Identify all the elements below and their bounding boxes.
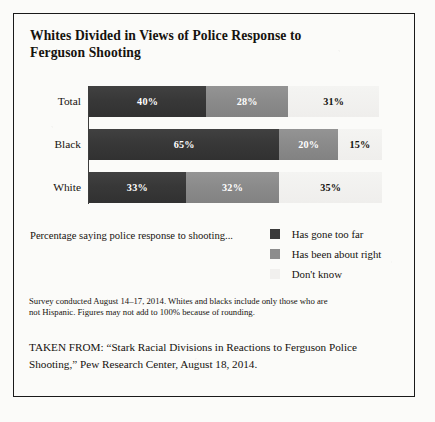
chart-legend: Percentage saying police response to sho… [30,224,390,284]
bar-segment-total-dont-know: 31% [288,86,379,117]
chart-row-bars: 40%28%31% [89,86,397,117]
bar-segment-total-has-been-about-right: 28% [206,86,288,117]
legend-caption: Percentage saying police response to sho… [30,230,233,241]
legend-item-list: Has gone too far Has been about right Do… [270,224,430,284]
bar-segment-black-has-been-about-right: 20% [279,129,338,160]
taken-from-line-1: TAKEN FROM: “Stark Racial Divisions in R… [29,339,385,356]
figure-title-line-1: Whites Divided in Views of Police Respon… [30,27,370,44]
legend-label-has-been-about-right: Has been about right [292,244,382,264]
mid-gray-swatch-icon [270,249,280,259]
dark-gray-swatch-icon [270,229,280,239]
bar-segment-white-has-been-about-right: 32% [186,172,280,203]
legend-label-has-gone-too-far: Has gone too far [292,224,364,244]
chart-row-label-white: White [27,172,81,203]
figure-title: Whites Divided in Views of Police Respon… [30,27,370,61]
taken-from-note: TAKEN FROM: “Stark Racial Divisions in R… [29,339,385,372]
legend-item-has-gone-too-far: Has gone too far [270,224,430,244]
chart-row-bars: 33%32%35% [89,172,397,203]
chart-row-total: Total40%28%31% [27,86,397,117]
chart-row-black: Black65%20%15% [27,129,397,160]
bar-segment-total-has-gone-too-far: 40% [89,86,206,117]
survey-note-line-2: not Hispanic. Figures may not add to 100… [29,307,381,318]
chart-row-white: White33%32%35% [27,172,397,203]
survey-note-line-1: Survey conducted August 14–17, 2014. Whi… [29,296,381,307]
chart-row-bars: 65%20%15% [89,129,397,160]
bar-segment-white-has-gone-too-far: 33% [89,172,186,203]
light-gray-swatch-icon [270,269,280,279]
bar-segment-black-dont-know: 15% [338,129,382,160]
bar-segment-black-has-gone-too-far: 65% [89,129,279,160]
chart-row-label-total: Total [27,86,81,117]
taken-from-line-2: Shooting,” Pew Research Center, August 1… [29,356,385,373]
figure-title-line-2: Ferguson Shooting [30,44,370,61]
legend-label-dont-know: Don't know [292,264,342,284]
legend-item-has-been-about-right: Has been about right [270,244,430,264]
survey-note: Survey conducted August 14–17, 2014. Whi… [29,296,381,319]
stacked-bar-chart: Total40%28%31%Black65%20%15%White33%32%3… [27,86,397,204]
chart-row-label-black: Black [27,129,81,160]
bar-segment-white-dont-know: 35% [279,172,382,203]
legend-item-dont-know: Don't know [270,264,430,284]
